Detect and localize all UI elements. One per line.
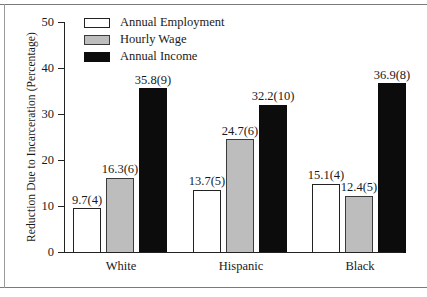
bar-hispanic-annual-employment[interactable] bbox=[193, 190, 221, 253]
bar-label-black-annual-income: 36.9(8) bbox=[358, 69, 426, 82]
figure-container: Reduction Due to Incarceration (Percenta… bbox=[0, 0, 427, 297]
y-axis-title: Reduction Due to Incarceration (Percenta… bbox=[25, 12, 37, 262]
top-rule bbox=[0, 4, 427, 5]
bar-white-annual-employment[interactable] bbox=[73, 208, 101, 253]
bar-hispanic-hourly-wage[interactable] bbox=[226, 139, 254, 253]
bar-label-white-annual-income: 35.8(9) bbox=[119, 74, 187, 87]
bar-black-annual-employment[interactable] bbox=[312, 184, 340, 254]
left-frame-edge bbox=[4, 4, 5, 288]
bar-black-hourly-wage[interactable] bbox=[345, 196, 373, 253]
bar-hispanic-annual-income[interactable] bbox=[259, 105, 287, 253]
y-tick-label-20: 20 bbox=[20, 154, 54, 167]
bar-label-hispanic-annual-income: 32.2(10) bbox=[235, 90, 311, 103]
y-tick-30 bbox=[58, 114, 64, 115]
y-tick-label-40: 40 bbox=[20, 62, 54, 75]
y-tick-10 bbox=[58, 206, 64, 207]
x-tick-label-black: Black bbox=[305, 260, 415, 273]
y-tick-label-10: 10 bbox=[20, 200, 54, 213]
y-tick-20 bbox=[58, 160, 64, 161]
y-tick-50 bbox=[58, 22, 64, 23]
y-tick-40 bbox=[58, 68, 64, 69]
x-tick-label-hispanic: Hispanic bbox=[186, 260, 296, 273]
x-axis-line bbox=[64, 252, 403, 253]
y-tick-label-50: 50 bbox=[20, 16, 54, 29]
y-tick-label-0: 0 bbox=[20, 246, 54, 259]
x-tick-label-white: White bbox=[66, 260, 176, 273]
y-tick-label-30: 30 bbox=[20, 108, 54, 121]
bottom-rule bbox=[0, 287, 427, 288]
bar-black-annual-income[interactable] bbox=[378, 83, 406, 253]
plot-area: 9.7(4) 16.3(6) 35.8(9) 13.7(5) 24.7(6) 3… bbox=[65, 22, 403, 253]
bar-white-annual-income[interactable] bbox=[139, 88, 167, 253]
bar-white-hourly-wage[interactable] bbox=[106, 178, 134, 253]
